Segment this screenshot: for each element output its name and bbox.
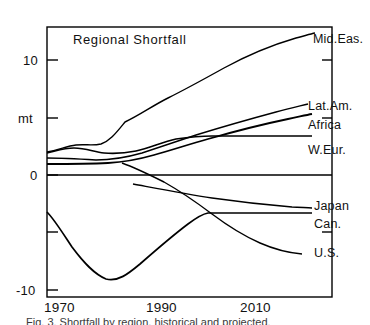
y-axis-unit-label: mt bbox=[18, 112, 33, 125]
y-tick-label-neg10: -10 bbox=[16, 284, 35, 297]
series-line-japan bbox=[133, 184, 312, 208]
series-label-w-eur: W.Eur. bbox=[308, 144, 346, 157]
chart-svg bbox=[0, 0, 370, 325]
series-label-mid-east: Mid.Eas. bbox=[313, 33, 363, 46]
series-line-mid-east bbox=[47, 33, 315, 152]
series-line-lat-am bbox=[47, 104, 308, 160]
y-tick-label-0: 0 bbox=[30, 169, 37, 182]
x-tick-label-1990: 1990 bbox=[146, 301, 177, 315]
series-line-us bbox=[122, 163, 302, 254]
figure-caption: Fig. 3. Shortfall by region, historical … bbox=[26, 316, 370, 325]
x-tick-label-2010: 2010 bbox=[240, 301, 271, 315]
series-label-lat-am: Lat.Am. bbox=[308, 100, 352, 113]
series-label-us: U.S. bbox=[314, 247, 339, 260]
series-label-canada: Can. bbox=[314, 218, 341, 231]
y-tick-label-10: 10 bbox=[23, 54, 38, 67]
series-label-japan: Japan bbox=[314, 200, 349, 213]
chart-title: Regional Shortfall bbox=[73, 33, 186, 46]
series-line-canada bbox=[47, 212, 312, 280]
figure-container: Regional Shortfall 10 mt 0 -10 1970 1990… bbox=[0, 0, 370, 325]
series-label-africa: Africa bbox=[308, 119, 341, 132]
x-tick-label-1970: 1970 bbox=[44, 301, 75, 315]
plot-frame bbox=[47, 27, 332, 297]
